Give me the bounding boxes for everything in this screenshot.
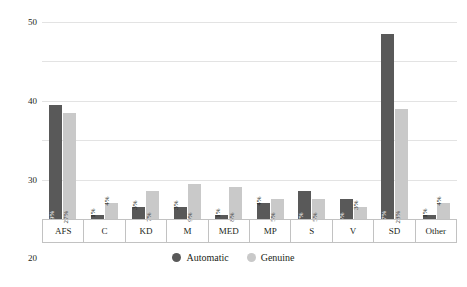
bar[interactable]: 3% xyxy=(174,207,187,219)
bar[interactable]: 5% xyxy=(340,199,353,219)
legend-label: Automatic xyxy=(186,252,228,263)
legend-label: Genuine xyxy=(261,252,295,263)
category-label-mp: MP xyxy=(250,220,291,242)
category-label-sd: SD xyxy=(374,220,415,242)
bar-value-label: 4% xyxy=(256,197,263,206)
bar-value-label: 1% xyxy=(422,208,429,217)
bar-value-label: 1% xyxy=(215,208,222,217)
bar-value-label: 4% xyxy=(436,197,443,206)
category-label-s: S xyxy=(291,220,332,242)
bar[interactable]: 29% xyxy=(49,105,62,219)
legend-swatch-icon xyxy=(172,253,181,262)
category-axis: AFSCKDMMEDMPSVSDOther xyxy=(42,219,457,243)
bar-group: 1%4% xyxy=(416,22,458,219)
bar[interactable]: 5% xyxy=(271,199,284,219)
bar-group: 3%9% xyxy=(167,22,209,219)
category-label-m: M xyxy=(167,220,208,242)
legend-item-genuine[interactable]: Genuine xyxy=(247,252,295,263)
category-label-kd: KD xyxy=(126,220,167,242)
bars-layer: 29%27%1%4%3%7%3%9%1%8%4%5%7%5%5%3%47%28%… xyxy=(42,22,457,219)
category-label-other: Other xyxy=(416,220,457,242)
bar-group: 7%5% xyxy=(291,22,333,219)
bar-group: 5%3% xyxy=(333,22,375,219)
bar[interactable]: 7% xyxy=(146,191,159,219)
bar-value-label: 1% xyxy=(90,208,97,217)
bar-group: 47%28% xyxy=(374,22,416,219)
bar-value-label: 3% xyxy=(173,201,180,210)
cropped-header-artifact xyxy=(0,0,467,6)
plot-area: 01020304050 29%27%1%4%3%7%3%9%1%8%4%5%7%… xyxy=(42,22,457,219)
bar[interactable]: 4% xyxy=(105,203,118,219)
legend-swatch-icon xyxy=(247,253,256,262)
bar[interactable]: 5% xyxy=(312,199,325,219)
bar-chart: Proportion of party support, % 010203040… xyxy=(0,0,467,287)
y-tick-label: 50 xyxy=(28,17,37,27)
bar[interactable]: 47% xyxy=(381,34,394,219)
bar[interactable]: 28% xyxy=(395,109,408,219)
bar[interactable]: 8% xyxy=(229,187,242,219)
chart-legend: AutomaticGenuine xyxy=(0,252,467,263)
category-label-med: MED xyxy=(209,220,250,242)
bar[interactable]: 4% xyxy=(437,203,450,219)
bar-group: 29%27% xyxy=(42,22,84,219)
bar-value-label: 4% xyxy=(104,197,111,206)
bar-value-label: 3% xyxy=(353,201,360,210)
y-tick-label: 30 xyxy=(28,175,37,185)
bar[interactable]: 27% xyxy=(63,113,76,219)
bar-group: 1%8% xyxy=(208,22,250,219)
bar-group: 4%5% xyxy=(250,22,292,219)
bar[interactable]: 3% xyxy=(354,207,367,219)
bar[interactable]: 7% xyxy=(298,191,311,219)
legend-item-automatic[interactable]: Automatic xyxy=(172,252,228,263)
bar[interactable]: 9% xyxy=(188,184,201,219)
bar-group: 3%7% xyxy=(125,22,167,219)
bar[interactable]: 4% xyxy=(257,203,270,219)
y-tick-label: 40 xyxy=(28,96,37,106)
bar-value-label: 3% xyxy=(132,201,139,210)
category-label-v: V xyxy=(333,220,374,242)
category-label-afs: AFS xyxy=(42,220,84,242)
category-label-c: C xyxy=(84,220,125,242)
bar-group: 1%4% xyxy=(84,22,126,219)
bar[interactable]: 3% xyxy=(132,207,145,219)
